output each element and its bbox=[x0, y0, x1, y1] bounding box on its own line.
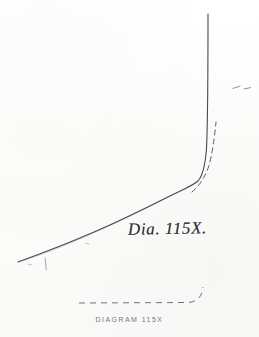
stray-marks bbox=[28, 86, 251, 270]
secondary-curve bbox=[192, 122, 216, 192]
diagram-canvas bbox=[0, 0, 259, 337]
handwritten-label: Dia. 115X. bbox=[128, 218, 207, 240]
caption: DIAGRAM 115X bbox=[0, 316, 259, 323]
dash-fragment-upper bbox=[233, 86, 240, 88]
speck-left-lower bbox=[28, 264, 32, 265]
dash-fragment-upper-2 bbox=[244, 88, 250, 89]
speck-mid-curve bbox=[86, 243, 89, 244]
diagram-page: Dia. 115X. DIAGRAM 115X bbox=[0, 0, 259, 337]
baseline-dashed-rule bbox=[79, 287, 203, 303]
tick-below-curve bbox=[45, 258, 46, 270]
